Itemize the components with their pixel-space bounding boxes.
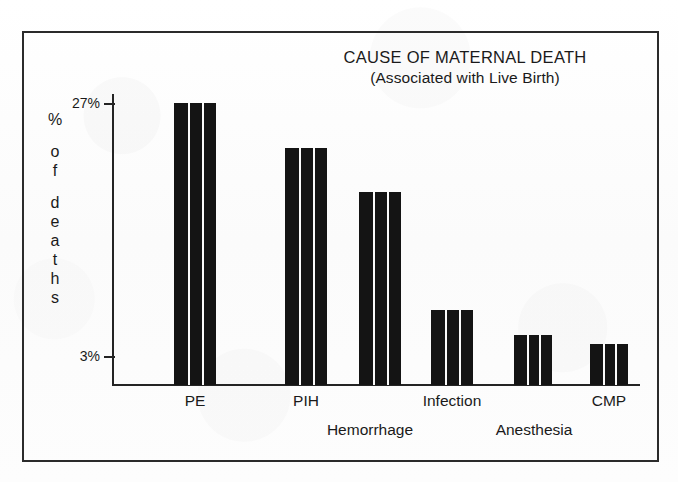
y-axis-caption-char: e xyxy=(42,212,68,231)
x-label-anesthesia: Anesthesia xyxy=(464,421,604,439)
y-tick-label-3: 3% xyxy=(56,348,100,364)
x-label-pih: PIH xyxy=(266,392,346,410)
bar-anesthesia xyxy=(514,335,552,385)
bar-infection xyxy=(431,310,473,385)
y-tick-mark-27 xyxy=(104,103,115,105)
bar-pe xyxy=(174,103,216,385)
y-axis-caption-char: a xyxy=(42,231,68,250)
y-axis-caption-char: % xyxy=(42,110,68,129)
chart-title: CAUSE OF MATERNAL DEATH xyxy=(285,48,645,67)
y-axis-line xyxy=(112,94,114,386)
bar-pih xyxy=(285,148,327,385)
y-axis-caption-char: t xyxy=(42,250,68,269)
y-axis-caption-char: s xyxy=(42,288,68,307)
y-tick-mark-3 xyxy=(104,356,115,358)
bar-hemorrhage xyxy=(359,192,401,385)
x-label-cmp: CMP xyxy=(569,392,649,410)
y-axis-caption-char: d xyxy=(42,193,68,212)
x-label-pe: PE xyxy=(155,392,235,410)
bar-cmp xyxy=(590,344,628,385)
chart-subtitle: (Associated with Live Birth) xyxy=(285,69,645,87)
y-axis-caption-char: o xyxy=(42,142,68,161)
chart-screenshot: CAUSE OF MATERNAL DEATH (Associated with… xyxy=(0,0,678,482)
x-label-infection: Infection xyxy=(392,392,512,410)
y-axis-caption-char: h xyxy=(42,269,68,288)
x-label-hemorrhage: Hemorrhage xyxy=(300,421,440,439)
y-axis-caption: % o f d e a t h s xyxy=(42,110,68,307)
y-tick-label-27: 27% xyxy=(56,95,100,111)
y-axis-caption-char: f xyxy=(42,161,68,180)
